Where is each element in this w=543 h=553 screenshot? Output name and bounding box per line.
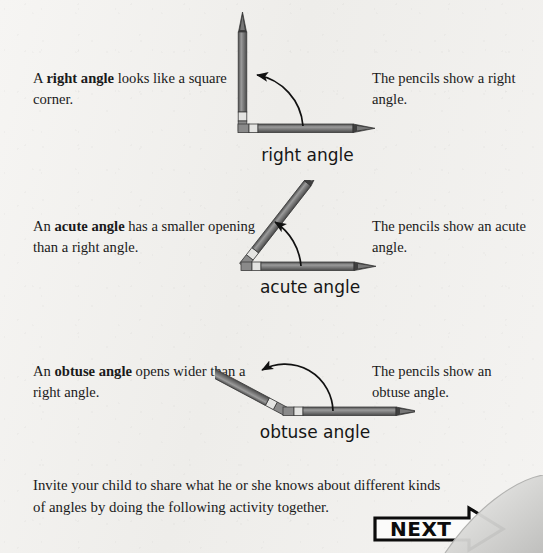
pencil-vertical (238, 12, 247, 131)
pencil-horizontal (238, 124, 375, 133)
acute-angle-figure-label: acute angle (225, 277, 395, 297)
desc-term: acute angle (55, 218, 125, 234)
obtuse-angle-figure-label: obtuse angle (215, 422, 415, 442)
right-angle-note: The pencils show a right angle. (372, 68, 532, 110)
angle-arc-arrow (257, 75, 303, 126)
desc-prefix: An (33, 218, 55, 234)
desc-prefix: An (33, 363, 55, 379)
desc-prefix: A (33, 70, 46, 86)
section-right-angle: A right angle looks like a square corner… (0, 0, 543, 180)
obtuse-angle-figure (215, 325, 415, 430)
pencil-slanted (215, 349, 287, 415)
angle-arc-arrow (275, 222, 301, 266)
right-angle-figure-label: right angle (225, 145, 390, 165)
pencil-slanted (240, 180, 324, 269)
right-angle-figure (225, 8, 390, 148)
section-acute-angle: An acute angle has a smaller opening tha… (0, 180, 543, 325)
next-button-label: NEXT (390, 517, 451, 541)
desc-term: obtuse angle (55, 363, 132, 379)
pencil-horizontal (283, 407, 415, 416)
pencil-horizontal (241, 262, 376, 271)
acute-angle-figure (225, 180, 395, 285)
acute-angle-note: The pencils show an acute angle. (372, 216, 532, 258)
desc-term: right angle (46, 70, 114, 86)
section-obtuse-angle: An obtuse angle opens wider than a right… (0, 325, 543, 470)
